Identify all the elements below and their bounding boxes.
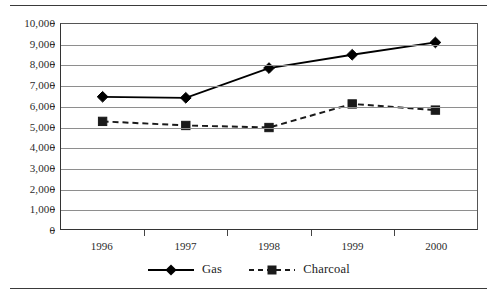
y-axis-tick-mark <box>50 189 55 190</box>
gridline <box>61 148 477 149</box>
y-axis-tick-label: 1,000 <box>3 203 55 215</box>
y-axis-tick-mark <box>50 168 55 169</box>
legend-label: Gas <box>202 262 222 277</box>
x-axis-tick-mark <box>311 230 312 236</box>
data-point-charcoal-1996 <box>98 117 106 125</box>
bottom-divider-rule <box>10 288 487 289</box>
x-axis-tick-mark <box>227 230 228 236</box>
y-axis-tick-label: 4,000 <box>3 141 55 153</box>
x-axis-tick-mark <box>144 230 145 236</box>
x-axis: 19961997199819992000 <box>60 230 478 260</box>
y-axis-tick-label: 2,000 <box>3 183 55 195</box>
data-point-gas-1996 <box>97 91 108 102</box>
top-divider-rule <box>10 5 487 6</box>
y-axis-tick-label: 7,000 <box>3 79 55 91</box>
y-axis-tick-mark <box>50 85 55 86</box>
chart-figure: 10,0009,0008,0007,0006,0005,0004,0003,00… <box>0 0 497 297</box>
y-axis-tick-mark <box>50 64 55 65</box>
gridline <box>61 86 477 87</box>
gridline <box>61 107 477 108</box>
series-canvas <box>61 24 477 229</box>
data-point-gas-2000 <box>430 37 441 48</box>
y-axis-tick-label: 5,000 <box>3 121 55 133</box>
y-axis-tick-label: 6,000 <box>3 100 55 112</box>
y-axis-tick-label: 10,000 <box>3 17 55 29</box>
y-axis-tick-label: 0 <box>3 224 55 236</box>
chart-legend: GasCharcoal <box>0 262 497 277</box>
y-axis-tick-mark <box>50 44 55 45</box>
gridline <box>61 45 477 46</box>
x-axis-tick-label: 1998 <box>258 240 280 252</box>
gridline <box>61 65 477 66</box>
gridline <box>61 210 477 211</box>
x-axis-tick-label: 1999 <box>342 240 364 252</box>
x-axis-tick-label: 1997 <box>174 240 196 252</box>
y-axis-tick-label: 9,000 <box>3 38 55 50</box>
x-axis-tick-mark <box>394 230 395 236</box>
legend-entry-charcoal[interactable]: Charcoal <box>248 262 350 277</box>
y-axis-tick-mark <box>50 147 55 148</box>
square-marker <box>248 263 296 277</box>
y-axis-tick-mark <box>50 127 55 128</box>
data-point-gas-1999 <box>347 49 358 60</box>
gridline <box>61 169 477 170</box>
gridline <box>61 128 477 129</box>
y-axis-tick-label: 3,000 <box>3 162 55 174</box>
legend-label: Charcoal <box>303 262 350 277</box>
y-axis-tick-mark <box>50 23 55 24</box>
y-axis-tick-mark <box>50 209 55 210</box>
y-axis-tick-mark <box>50 230 55 231</box>
x-axis-tick-label: 2000 <box>425 240 447 252</box>
gridline <box>61 190 477 191</box>
y-axis: 10,0009,0008,0007,0006,0005,0004,0003,00… <box>0 23 55 230</box>
x-axis-tick-label: 1996 <box>91 240 113 252</box>
data-point-gas-1998 <box>264 63 275 74</box>
y-axis-tick-label: 8,000 <box>3 58 55 70</box>
legend-entry-gas[interactable]: Gas <box>147 262 222 277</box>
plot-area <box>60 23 478 230</box>
y-axis-tick-mark <box>50 106 55 107</box>
data-point-gas-1997 <box>180 92 191 103</box>
diamond-marker <box>147 263 195 277</box>
